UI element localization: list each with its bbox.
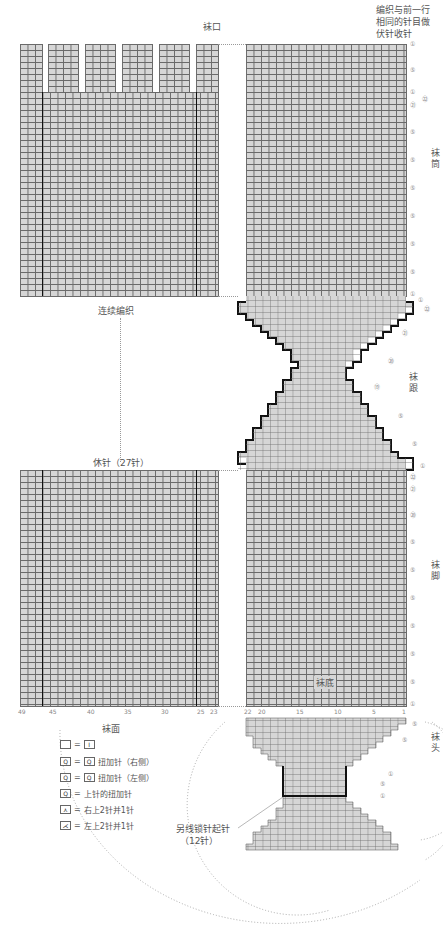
- x-tick: 1: [402, 708, 406, 715]
- row-marker: ①: [388, 770, 393, 777]
- row-marker: ⑤: [410, 538, 415, 545]
- row-marker: ⑤: [410, 66, 415, 73]
- heel-connector: [218, 470, 238, 471]
- legend-text: 上针的扭加针: [84, 788, 132, 799]
- x-tick: 15: [296, 708, 304, 715]
- foot-connector: [218, 706, 246, 707]
- twist-increase-left-icon: Q: [60, 773, 71, 782]
- twist-stitch-icon: Q: [84, 773, 95, 782]
- row-marker: ⑤: [410, 212, 415, 219]
- twist-increase-right-icon: Q: [60, 757, 71, 766]
- legend-row: ⋌ = 左上2针并1针: [60, 820, 134, 831]
- row-marker: ①: [410, 88, 415, 95]
- x-tick: 25: [197, 708, 205, 715]
- instep-foot-grid: [20, 470, 219, 707]
- heel-label: 袜跟: [408, 372, 418, 394]
- hold-stitches-label: 休针（27针）: [93, 456, 149, 469]
- row-marker: ⑤: [410, 156, 415, 163]
- x-tick: 20: [258, 708, 266, 715]
- left-over-decrease-icon: ⋌: [60, 821, 71, 830]
- x-tick: 5: [372, 708, 376, 715]
- sole-label: 袜底: [314, 676, 336, 689]
- legend-row: Q = Q 扭加针（右侧）: [60, 756, 154, 767]
- row-marker: ㉒: [424, 304, 430, 313]
- row-marker: ㉒: [410, 472, 416, 481]
- foot-label: 袜脚: [430, 560, 440, 582]
- row-marker: ⑤: [410, 622, 415, 629]
- cable-boundary: [196, 470, 197, 706]
- row-marker: ①: [410, 700, 415, 707]
- cable-boundary: [42, 470, 43, 706]
- x-tick: 40: [87, 708, 95, 715]
- x-tick: 22: [244, 708, 252, 715]
- x-tick: 49: [18, 708, 26, 715]
- row-marker: ㉑: [410, 100, 416, 109]
- row-marker: ㉑: [402, 328, 408, 337]
- continue-arrow-line: [120, 318, 121, 462]
- leg-label: 袜筒: [430, 148, 440, 170]
- row-marker: ⑲: [374, 382, 380, 391]
- cuff-connector: [218, 44, 246, 45]
- x-tick: 10: [334, 708, 342, 715]
- purl-twist-increase-icon: Q: [60, 789, 71, 798]
- toe-label: 袜头: [430, 732, 440, 754]
- foot-grid: [246, 470, 407, 707]
- knit-stitch-icon: I: [84, 740, 95, 749]
- provisional-cast-on-count: （12针）: [180, 834, 218, 847]
- row-marker: ①: [380, 792, 385, 799]
- legend-row: Q = 上针的扭加针: [60, 788, 132, 799]
- row-marker: ⑤: [410, 594, 415, 601]
- row-marker: ⑳: [388, 356, 394, 365]
- row-marker: ⑤: [398, 412, 403, 419]
- row-marker: ⑤: [410, 128, 415, 135]
- row-marker: ⑤: [412, 440, 417, 447]
- row-marker: ⑤: [410, 650, 415, 657]
- x-tick: 45: [49, 708, 57, 715]
- row-marker: ⑤: [410, 566, 415, 573]
- x-tick: 23: [210, 708, 218, 715]
- row-marker: ㉑: [410, 484, 416, 493]
- continue-knitting-label: 连续编织: [98, 304, 134, 317]
- legend-text: 左上2针并1针: [84, 820, 134, 831]
- row-marker: ⑳: [410, 510, 416, 519]
- legend-text: 扭加针（右侧）: [98, 756, 154, 767]
- legend-row: Q = Q 扭加针（左侧）: [60, 772, 154, 783]
- legend-text: 扭加针（左侧）: [98, 772, 154, 783]
- row-marker: ①: [410, 40, 415, 47]
- row-marker: ⑤: [412, 720, 417, 727]
- row-marker: ㉒: [422, 94, 428, 103]
- row-marker: ⑤: [410, 184, 415, 191]
- legend-text: 右上2针并1针: [84, 804, 134, 815]
- heel-connector: [218, 296, 238, 297]
- x-tick: 30: [161, 708, 169, 715]
- row-marker: ⑤: [410, 678, 415, 685]
- x-tick: 35: [124, 708, 132, 715]
- legend-row: = I: [60, 740, 95, 749]
- row-marker: ⑤: [410, 240, 415, 247]
- cable-boundary: [196, 92, 197, 296]
- right-over-decrease-icon: ⋏: [60, 805, 71, 814]
- cable-boundary: [42, 92, 43, 296]
- twist-stitch-icon: Q: [84, 757, 95, 766]
- row-marker: ①: [410, 290, 415, 297]
- row-marker: ①: [420, 462, 425, 469]
- instep-label: 袜面: [102, 722, 120, 735]
- row-marker: ⑤: [380, 780, 385, 787]
- row-marker: ⑤: [410, 268, 415, 275]
- row-marker: ⑤: [402, 736, 407, 743]
- blank-square-icon: [60, 740, 71, 749]
- row-marker: ①: [418, 296, 423, 303]
- legend-row: ⋏ = 右上2针并1针: [60, 804, 134, 815]
